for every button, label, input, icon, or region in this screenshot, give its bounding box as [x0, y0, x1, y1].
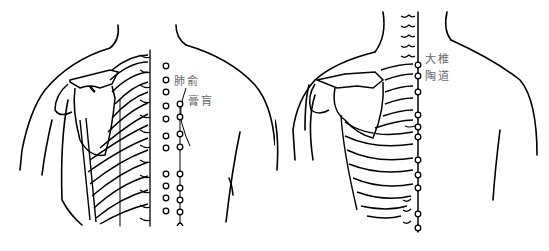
left-anatomy-drawing	[0, 0, 275, 251]
outer-acupoints	[163, 63, 169, 214]
right-back-diagram: 大椎 陶道	[275, 0, 549, 251]
left-back-diagram: 肺俞 膏肓	[0, 0, 275, 251]
label-taodao: 陶道	[425, 71, 451, 83]
label-dazhui: 大椎	[425, 54, 451, 66]
label-gaohuang: 膏肓	[188, 96, 214, 108]
right-anatomy-drawing	[275, 0, 549, 251]
label-feishu: 肺俞	[174, 76, 200, 88]
